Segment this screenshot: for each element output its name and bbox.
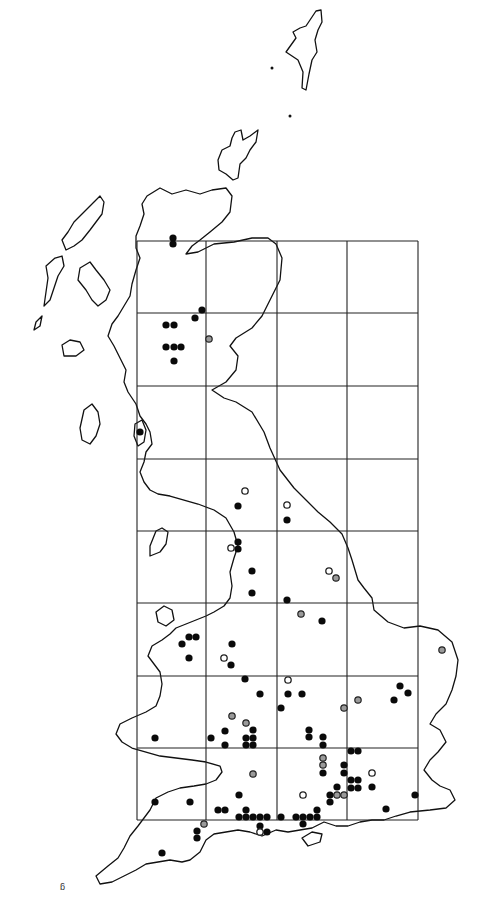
occurrence-dot-filled [249,726,256,733]
occurrence-dot-filled [214,806,221,813]
occurrence-dot-filled [396,682,403,689]
occurrence-dot-filled [382,805,389,812]
occurrence-dot-filled [221,727,228,734]
fair-isle-marker [271,67,274,70]
occurrence-dot-grey [341,705,347,711]
occurrence-dot-filled [354,784,361,791]
occurrence-dot-filled [277,704,284,711]
occurrence-dot-filled [221,741,228,748]
occurrence-dot-open [228,545,234,551]
occurrence-dot-filled [178,640,185,647]
occurrence-dot-filled [299,813,306,820]
occurrence-dot-open [242,488,248,494]
occurrence-dot-filled [347,747,354,754]
occurrence-dot-filled [263,828,270,835]
outer-hebrides [34,196,104,330]
occurrence-dot-filled [158,849,165,856]
occurrence-dot-filled [340,769,347,776]
occurrence-dot-filled [263,813,270,820]
occurrence-dot-filled [354,747,361,754]
coastline-outline: ᵷ [34,10,458,890]
occurrence-dot-grey [439,647,445,653]
occurrence-dot-filled [249,734,256,741]
occurrence-dot-filled [305,733,312,740]
occurrence-dot-filled [193,827,200,834]
occurrence-dot-filled [207,734,214,741]
occurrence-dot-filled [256,690,263,697]
occurrence-dot-filled [242,813,249,820]
occurrence-dot-filled [170,321,177,328]
occurrence-dot-filled [256,813,263,820]
occurrence-dot-filled [284,690,291,697]
occurrence-dot-filled [177,343,184,350]
occurrence-dot-filled [306,813,313,820]
occurrence-dot-filled [248,567,255,574]
occurrence-dot-filled [193,834,200,841]
occurrence-dot-filled [242,734,249,741]
occurrence-dot-filled [283,596,290,603]
occurrence-dot-filled [151,798,158,805]
occurrence-dot-filled [318,617,325,624]
skye [78,262,110,306]
occurrence-dot-filled [242,741,249,748]
occurrence-dot-filled [234,538,241,545]
occurrence-dot-filled [170,343,177,350]
occurrence-dot-filled [277,813,284,820]
mull [62,340,84,356]
occurrence-dot-grey [298,611,304,617]
occurrence-dot-open [221,655,227,661]
occurrence-dot-open [300,792,306,798]
occurrence-dot-filled [235,791,242,798]
anglesey [156,606,174,626]
occurrence-dot-grey [334,792,340,798]
islay-jura [80,404,100,444]
occurrence-dot-filled [185,654,192,661]
occurrence-dot-filled [185,633,192,640]
occurrence-dot-grey [201,821,207,827]
occurrence-dot-filled [298,690,305,697]
occurrence-dot-filled [242,806,249,813]
occurrence-dot-filled [151,734,158,741]
occurrence-dot-open [285,677,291,683]
occurrence-dot-filled [326,791,333,798]
occurrence-dots [136,234,445,856]
occurrence-dot-filled [162,321,169,328]
occurrence-dot-filled [326,798,333,805]
occurrence-dot-grey [243,720,249,726]
occurrence-dot-open [257,829,263,835]
occurrence-dot-filled [305,726,312,733]
occurrence-dot-filled [411,791,418,798]
occurrence-dot-grey [341,792,347,798]
occurrence-dot-filled [347,784,354,791]
occurrence-dot-grey [333,575,339,581]
occurrence-dot-filled [354,776,361,783]
occurrence-dot-filled [292,813,299,820]
occurrence-dot-grey [229,713,235,719]
occurrence-dot-filled [234,502,241,509]
occurrence-dot-filled [191,314,198,321]
occurrence-dot-filled [249,813,256,820]
occurrence-dot-filled [241,675,248,682]
occurrence-dot-filled [319,741,326,748]
occurrence-dot-grey [206,336,212,342]
grid-lines [137,241,418,820]
occurrence-dot-filled [170,357,177,364]
occurrence-dot-filled [235,813,242,820]
occurrence-dot-grey [320,755,326,761]
occurrence-dot-filled [333,783,340,790]
occurrence-dot-filled [186,798,193,805]
occurrence-dot-filled [368,783,375,790]
occurrence-dot-filled [221,806,228,813]
occurrence-dot-filled [390,696,397,703]
occurrence-dot-open [326,568,332,574]
occurrence-dot-filled [340,761,347,768]
occurrence-dot-filled [347,776,354,783]
islet-marker [289,115,292,118]
occurrence-dot-grey [355,697,361,703]
occurrence-dot-filled [283,516,290,523]
occurrence-dot-filled [198,306,205,313]
occurrence-dot-filled [228,640,235,647]
occurrence-dot-filled [162,343,169,350]
occurrence-dot-filled [313,806,320,813]
occurrence-dot-filled [404,689,411,696]
